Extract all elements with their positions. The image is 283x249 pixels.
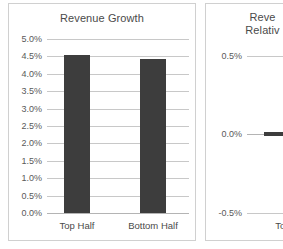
y-axis-tick-label: 0.0%	[206, 130, 242, 139]
y-axis-tick-label: 2.5%	[9, 122, 42, 131]
y-axis-tick-label: 1.5%	[9, 157, 42, 166]
chart-panel-revenue-growth-relative[interactable]: Reve Relativ 0.5% 0.0% -0.5% Top	[205, 3, 283, 241]
y-axis-tick-label: 0.5%	[206, 52, 242, 61]
y-axis-tick-label: 5.0%	[9, 35, 42, 44]
axis-baseline	[47, 213, 189, 214]
y-axis-tick-label: 3.5%	[9, 87, 42, 96]
bar-top[interactable]	[264, 132, 283, 136]
y-axis-tick-label: 0.0%	[9, 209, 42, 218]
y-axis-tick-label: 4.5%	[9, 52, 42, 61]
gridline-0-5-positive	[247, 56, 283, 57]
plot-area-revenue-growth-relative: 0.5% 0.0% -0.5% Top	[206, 4, 283, 240]
bar-top-half[interactable]	[64, 55, 90, 213]
plot-area-revenue-growth: 5.0% 4.5% 4.0% 3.5% 3.0% 2.5% 2.0% 1.5% …	[9, 4, 195, 240]
y-axis-tick-label: -0.5%	[206, 209, 242, 218]
gridline-0-5-negative	[247, 213, 283, 214]
y-axis-tick-label: 2.0%	[9, 139, 42, 148]
y-axis-tick-label: 3.0%	[9, 105, 42, 114]
y-axis-tick-label: 0.5%	[9, 192, 42, 201]
y-axis-tick-label: 4.0%	[9, 70, 42, 79]
x-axis-tick-label: Top Half	[47, 220, 107, 231]
x-axis-tick-label: Top	[254, 220, 283, 231]
y-axis-tick-label: 1.0%	[9, 174, 42, 183]
x-axis-tick-label: Bottom Half	[119, 220, 187, 231]
bar-bottom-half[interactable]	[140, 59, 166, 213]
chart-panel-revenue-growth[interactable]: Revenue Growth 5.0% 4.5% 4.0% 3.5% 3.0% …	[8, 3, 196, 241]
gridline-5-0	[47, 39, 189, 40]
